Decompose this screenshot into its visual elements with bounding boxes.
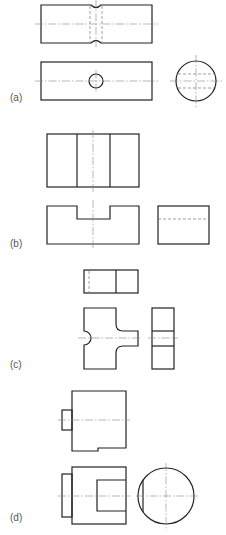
panel-d-drawing bbox=[58, 391, 198, 529]
panel-label-c: (c) bbox=[10, 359, 22, 370]
panel-a-drawing bbox=[35, 0, 222, 107]
panel-c-drawing bbox=[78, 270, 178, 369]
panel-label-a: (a) bbox=[10, 92, 22, 103]
panel-label-d: (d) bbox=[10, 512, 22, 523]
panel-b-drawing bbox=[47, 130, 209, 248]
panel-label-b: (b) bbox=[10, 238, 22, 249]
technical-drawing bbox=[0, 0, 226, 535]
